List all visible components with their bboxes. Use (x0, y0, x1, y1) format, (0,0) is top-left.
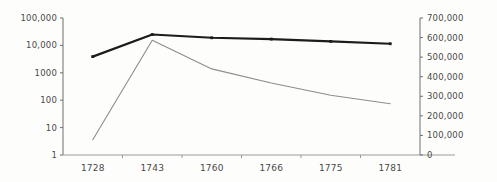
y-axis-left-tick-label: 10 (46, 123, 57, 132)
y-axis-right-tick-label: 200,000 (427, 112, 464, 121)
x-axis-tick-label: 1766 (259, 164, 283, 173)
y-axis-right-tick-label: 500,000 (427, 53, 464, 62)
data-point-marker (91, 55, 94, 58)
y-axis-right-tick-label: 400,000 (427, 72, 464, 81)
y-axis-left-tick-label: 1 (51, 151, 57, 160)
y-axis-left-tick-label: 10,000 (26, 41, 57, 50)
y-axis-right-tick-label: 700,000 (427, 14, 464, 23)
y-axis-right-tick-label: 0 (427, 151, 433, 160)
y-axis-left-tick-label: 100,000 (20, 14, 57, 23)
series-dark-line (93, 35, 391, 57)
data-point-marker (151, 33, 154, 36)
y-axis-right-tick-label: 600,000 (427, 33, 464, 42)
x-axis-tick-label: 1781 (378, 164, 402, 173)
data-point-marker (270, 38, 273, 41)
data-point-marker (329, 40, 332, 43)
data-point-marker (389, 42, 392, 45)
chart-plot-area (0, 0, 497, 182)
y-axis-left-tick-label: 1000 (35, 69, 57, 78)
data-point-marker (210, 36, 213, 39)
chart-container: 100,00010,0001000100101 700,000600,00050… (0, 0, 497, 182)
x-axis-tick-label: 1760 (200, 164, 224, 173)
y-axis-right-tick-label: 100,000 (427, 131, 464, 140)
x-axis-tick-label: 1728 (81, 164, 105, 173)
series-gray-line (93, 40, 391, 139)
series-dark-markers (91, 33, 391, 58)
y-axis-right-tick-label: 300,000 (427, 92, 464, 101)
y-axis-left-tick-label: 100 (40, 96, 57, 105)
x-axis-tick-label: 1775 (319, 164, 343, 173)
x-axis-tick-label: 1743 (140, 164, 164, 173)
